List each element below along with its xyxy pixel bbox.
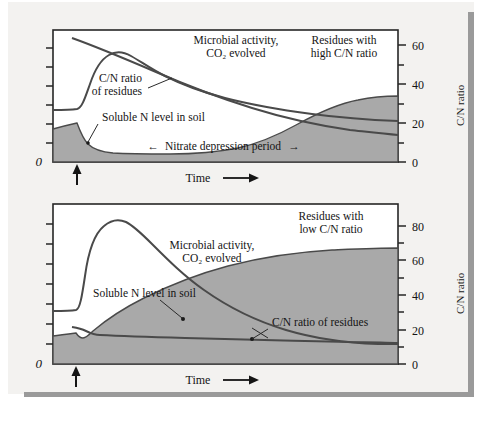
left-axis-ticks <box>46 224 53 344</box>
right-tick-label-80: 80 <box>412 220 424 234</box>
left-axis-zero-label: 0 <box>36 154 43 169</box>
x-axis-label: Time <box>186 373 211 387</box>
left-axis-ticks <box>46 48 53 143</box>
right-axis-ticks <box>398 226 406 364</box>
callout-line-1: Residues with <box>312 34 377 46</box>
soluble-n-leader-dot <box>181 317 185 321</box>
microbial-activity-label-1: Microbial activity, <box>194 34 279 47</box>
high-cn-chart-svg: 0 0 20 40 60 Residues with high C/N rati… <box>20 22 460 190</box>
page-shadow-bottom <box>24 392 474 397</box>
soluble-n-leader-dot <box>86 141 90 145</box>
nitrate-depression-label: Nitrate depression period <box>165 140 281 153</box>
microbial-activity-label-1: Microbial activity, <box>170 239 255 252</box>
right-tick-label-40: 40 <box>412 78 424 92</box>
residue-addition-arrow <box>72 366 81 387</box>
right-tick-label-40: 40 <box>412 289 424 303</box>
figure-page: 0 0 20 40 60 Residues with high C/N rati… <box>0 0 487 425</box>
callout-line-2: low C/N ratio <box>299 223 362 235</box>
right-axis-title: C/N ratio <box>454 85 466 126</box>
chart-panel-high-cn: 0 0 20 40 60 Residues with high C/N rati… <box>20 22 460 190</box>
microbial-activity-label-2: CO₂ evolved <box>206 47 266 59</box>
page-shadow-right <box>468 12 474 394</box>
x-axis-arrow <box>223 174 259 183</box>
soluble-n-label: Soluble N level in soil <box>93 287 196 299</box>
right-tick-label-20: 20 <box>412 324 424 338</box>
nitrate-depression-right-arrow: → <box>288 140 300 152</box>
right-tick-label-0: 0 <box>412 156 418 170</box>
callout-line-2: high C/N ratio <box>311 47 378 60</box>
right-tick-label-60: 60 <box>412 254 424 268</box>
left-axis-zero-label: 0 <box>36 356 43 371</box>
right-tick-label-20: 20 <box>412 117 424 131</box>
cn-ratio-label: C/N ratio of residues <box>272 316 369 328</box>
nitrate-depression-left-arrow: ← <box>147 140 159 152</box>
chart-panel-low-cn: 0 0 20 40 60 80 Residues with low C/N ra <box>20 196 460 391</box>
right-tick-label-60: 60 <box>412 39 424 53</box>
right-tick-label-0: 0 <box>412 358 418 372</box>
soluble-n-label: Soluble N level in soil <box>102 111 205 123</box>
x-axis-label: Time <box>186 171 211 185</box>
x-axis-arrow <box>223 376 259 385</box>
right-axis-ticks <box>398 45 406 162</box>
cn-ratio-label-1: C/N ratio <box>99 72 142 84</box>
cn-ratio-label-2: of residues <box>92 85 143 97</box>
callout-line-1: Residues with <box>299 210 364 222</box>
residue-addition-arrow <box>73 164 82 185</box>
right-axis-title: C/N ratio <box>454 273 466 314</box>
low-cn-chart-svg: 0 0 20 40 60 80 Residues with low C/N ra <box>20 196 460 391</box>
microbial-activity-label-2: CO₂ evolved <box>182 252 242 264</box>
